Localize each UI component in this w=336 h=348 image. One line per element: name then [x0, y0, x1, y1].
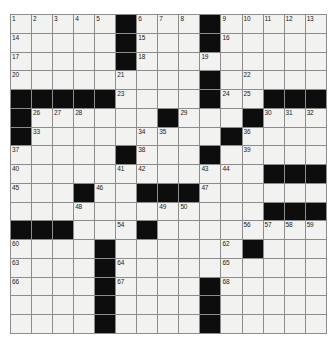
crossword-open-cell[interactable] — [137, 259, 158, 278]
crossword-open-cell[interactable]: 12 — [285, 15, 306, 34]
crossword-open-cell[interactable]: 64 — [116, 259, 137, 278]
crossword-open-cell[interactable]: 14 — [11, 34, 32, 53]
crossword-grid[interactable]: 1234567891011121314151617181920212223242… — [10, 14, 327, 334]
crossword-open-cell[interactable]: 44 — [221, 165, 242, 184]
crossword-open-cell[interactable] — [74, 259, 95, 278]
crossword-open-cell[interactable]: 43 — [200, 165, 221, 184]
crossword-open-cell[interactable]: 38 — [137, 146, 158, 165]
crossword-open-cell[interactable] — [221, 221, 242, 240]
crossword-open-cell[interactable] — [264, 184, 285, 203]
crossword-open-cell[interactable] — [95, 221, 116, 240]
crossword-open-cell[interactable]: 66 — [11, 278, 32, 297]
crossword-open-cell[interactable]: 48 — [74, 203, 95, 222]
crossword-open-cell[interactable]: 16 — [221, 34, 242, 53]
crossword-open-cell[interactable]: 28 — [74, 109, 95, 128]
crossword-open-cell[interactable]: 2 — [32, 15, 53, 34]
crossword-open-cell[interactable] — [53, 128, 74, 147]
crossword-open-cell[interactable] — [221, 53, 242, 72]
crossword-open-cell[interactable]: 6 — [137, 15, 158, 34]
crossword-open-cell[interactable]: 68 — [221, 278, 242, 297]
crossword-open-cell[interactable] — [116, 184, 137, 203]
crossword-open-cell[interactable] — [95, 203, 116, 222]
crossword-open-cell[interactable]: 4 — [74, 15, 95, 34]
crossword-open-cell[interactable] — [95, 128, 116, 147]
crossword-open-cell[interactable] — [285, 146, 306, 165]
crossword-open-cell[interactable] — [179, 34, 200, 53]
crossword-open-cell[interactable] — [306, 128, 327, 147]
crossword-open-cell[interactable]: 60 — [11, 240, 32, 259]
crossword-open-cell[interactable] — [243, 278, 264, 297]
crossword-open-cell[interactable]: 57 — [264, 221, 285, 240]
crossword-open-cell[interactable]: 24 — [221, 90, 242, 109]
crossword-open-cell[interactable] — [137, 71, 158, 90]
crossword-open-cell[interactable] — [74, 240, 95, 259]
crossword-open-cell[interactable] — [32, 259, 53, 278]
crossword-open-cell[interactable] — [243, 53, 264, 72]
crossword-open-cell[interactable] — [306, 53, 327, 72]
crossword-open-cell[interactable] — [32, 315, 53, 334]
crossword-open-cell[interactable] — [306, 240, 327, 259]
crossword-open-cell[interactable]: 34 — [137, 128, 158, 147]
crossword-open-cell[interactable]: 63 — [11, 259, 32, 278]
crossword-open-cell[interactable]: 29 — [179, 109, 200, 128]
crossword-open-cell[interactable] — [95, 34, 116, 53]
crossword-open-cell[interactable]: 7 — [158, 15, 179, 34]
crossword-open-cell[interactable] — [221, 315, 242, 334]
crossword-open-cell[interactable] — [285, 34, 306, 53]
crossword-open-cell[interactable] — [158, 53, 179, 72]
crossword-open-cell[interactable] — [74, 278, 95, 297]
crossword-open-cell[interactable]: 1 — [11, 15, 32, 34]
crossword-open-cell[interactable] — [53, 165, 74, 184]
crossword-open-cell[interactable] — [95, 53, 116, 72]
crossword-open-cell[interactable]: 20 — [11, 71, 32, 90]
crossword-open-cell[interactable] — [95, 109, 116, 128]
crossword-open-cell[interactable]: 62 — [221, 240, 242, 259]
crossword-open-cell[interactable]: 42 — [137, 165, 158, 184]
crossword-open-cell[interactable] — [95, 165, 116, 184]
crossword-open-cell[interactable] — [285, 71, 306, 90]
crossword-open-cell[interactable] — [200, 259, 221, 278]
crossword-open-cell[interactable] — [53, 315, 74, 334]
crossword-open-cell[interactable] — [158, 71, 179, 90]
crossword-open-cell[interactable]: 45 — [11, 184, 32, 203]
crossword-open-cell[interactable] — [116, 203, 137, 222]
crossword-open-cell[interactable] — [179, 259, 200, 278]
crossword-open-cell[interactable] — [243, 203, 264, 222]
crossword-open-cell[interactable]: 22 — [243, 71, 264, 90]
crossword-open-cell[interactable] — [158, 240, 179, 259]
crossword-open-cell[interactable] — [137, 296, 158, 315]
crossword-open-cell[interactable]: 54 — [116, 221, 137, 240]
crossword-open-cell[interactable]: 50 — [179, 203, 200, 222]
crossword-open-cell[interactable] — [74, 53, 95, 72]
crossword-open-cell[interactable]: 5 — [95, 15, 116, 34]
crossword-open-cell[interactable] — [285, 259, 306, 278]
crossword-open-cell[interactable]: 39 — [243, 146, 264, 165]
crossword-open-cell[interactable] — [158, 296, 179, 315]
crossword-open-cell[interactable] — [221, 109, 242, 128]
crossword-open-cell[interactable] — [243, 296, 264, 315]
crossword-open-cell[interactable] — [179, 240, 200, 259]
crossword-open-cell[interactable] — [264, 53, 285, 72]
crossword-open-cell[interactable] — [53, 296, 74, 315]
crossword-open-cell[interactable] — [137, 203, 158, 222]
crossword-open-cell[interactable] — [285, 53, 306, 72]
crossword-open-cell[interactable] — [53, 71, 74, 90]
crossword-open-cell[interactable] — [32, 278, 53, 297]
crossword-open-cell[interactable] — [200, 128, 221, 147]
crossword-open-cell[interactable] — [137, 278, 158, 297]
crossword-open-cell[interactable] — [158, 165, 179, 184]
crossword-open-cell[interactable] — [74, 34, 95, 53]
crossword-open-cell[interactable]: 37 — [11, 146, 32, 165]
crossword-open-cell[interactable]: 11 — [264, 15, 285, 34]
crossword-open-cell[interactable] — [11, 296, 32, 315]
crossword-open-cell[interactable]: 41 — [116, 165, 137, 184]
crossword-open-cell[interactable] — [264, 34, 285, 53]
crossword-open-cell[interactable] — [306, 259, 327, 278]
crossword-open-cell[interactable] — [158, 278, 179, 297]
crossword-open-cell[interactable] — [116, 240, 137, 259]
crossword-open-cell[interactable]: 56 — [243, 221, 264, 240]
crossword-open-cell[interactable] — [32, 240, 53, 259]
crossword-open-cell[interactable] — [179, 90, 200, 109]
crossword-open-cell[interactable] — [306, 34, 327, 53]
crossword-open-cell[interactable] — [179, 315, 200, 334]
